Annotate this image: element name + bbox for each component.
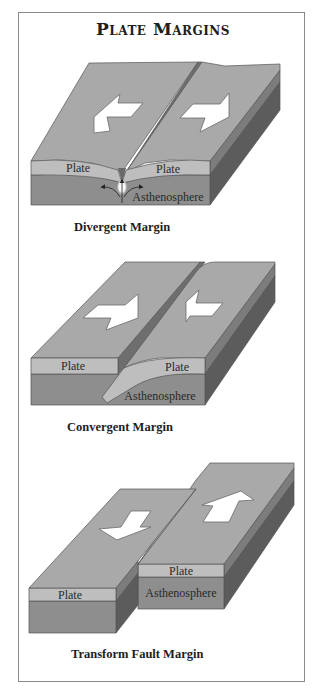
convergent-plate-left-label: Plate bbox=[61, 359, 85, 373]
convergent-caption: Convergent Margin bbox=[67, 420, 173, 434]
convergent-diagram: Plate Plate Asthenosphere bbox=[31, 262, 275, 405]
convergent-plate-right-label: Plate bbox=[165, 360, 189, 374]
transform-plate-right-label: Plate bbox=[169, 564, 193, 578]
divergent-plate-left-label: Plate bbox=[66, 161, 90, 175]
convergent-asthenosphere-label: Asthenosphere bbox=[124, 389, 195, 403]
transform-caption: Transform Fault Margin bbox=[71, 647, 203, 661]
transform-diagram: Plate Plate Asthenosphere bbox=[29, 463, 294, 633]
divergent-plate-right-label: Plate bbox=[156, 162, 180, 176]
figure-title: Plate Margins bbox=[96, 19, 230, 39]
transform-plate-left-label: Plate bbox=[58, 588, 82, 602]
divergent-caption: Divergent Margin bbox=[74, 220, 170, 234]
divergent-asthenosphere-label: Asthenosphere bbox=[132, 190, 203, 204]
divergent-diagram: Plate Plate Asthenosphere bbox=[31, 62, 280, 205]
transform-asthenosphere-label: Asthenosphere bbox=[145, 586, 216, 600]
plate-margins-figure: Plate Margins Plate Plate Asthenosphere … bbox=[0, 0, 318, 697]
